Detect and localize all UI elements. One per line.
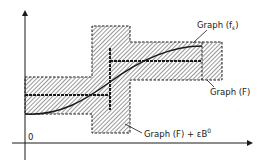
- set-valued-map-diagram: 0 Graph (fε) Graph (F) Graph (F) + εB0: [0, 0, 267, 163]
- epsilon-neighborhood-region: [25, 26, 222, 133]
- origin-label: 0: [28, 132, 33, 142]
- graph-F-neighborhood-label: Graph (F) + εB0: [144, 127, 211, 139]
- graph-F-label: Graph (F): [210, 87, 250, 97]
- graph-f-eps-label: Graph (fε): [197, 20, 239, 31]
